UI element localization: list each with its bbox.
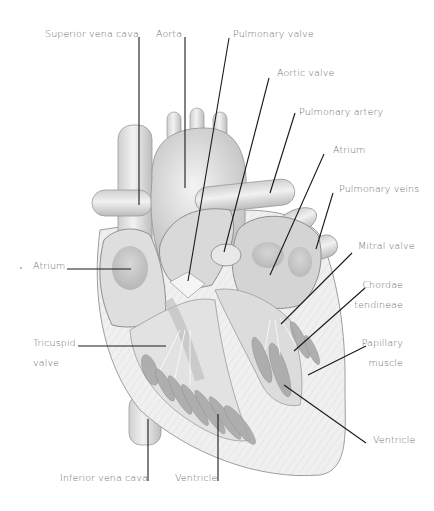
aortic-valve-shape: [211, 244, 241, 266]
label-chordae-tendineae-line1: Chordae: [362, 279, 403, 291]
label-chordae-tendineae-line2: tendineae: [354, 299, 403, 311]
label-mitral-valve: Mitral valve: [358, 240, 415, 252]
pulmonary-branch-left: [92, 190, 152, 216]
label-aorta: Aorta: [156, 28, 182, 40]
heart-illustration: [0, 0, 434, 511]
label-pulmonary-artery: Pulmonary artery: [299, 106, 383, 118]
label-tricuspid-valve-line1: Tricuspid: [33, 337, 76, 349]
label-ventricle-right-side: Ventricle: [373, 434, 416, 446]
label-superior-vena-cava: Superior vena cava: [45, 28, 139, 40]
label-tricuspid-valve-line2: valve: [33, 357, 59, 369]
label-papillary-muscle-line1: Papillary: [362, 337, 403, 349]
label-atrium-left-side: Atrium: [333, 144, 365, 156]
heart-diagram: Superior vena cavaAortaPulmonary valveAo…: [0, 0, 434, 511]
label-pulmonary-valve: Pulmonary valve: [233, 28, 314, 40]
label-inferior-vena-cava: Inferior vena cava: [60, 472, 148, 484]
label-atrium-right-side: Atrium: [33, 260, 65, 272]
stray-mark: [20, 267, 22, 269]
label-papillary-muscle-line2: muscle: [368, 357, 403, 369]
label-ventricle-bottom: Ventricle: [175, 472, 218, 484]
label-aortic-valve: Aortic valve: [277, 67, 334, 79]
label-pulmonary-veins: Pulmonary veins: [339, 183, 419, 195]
